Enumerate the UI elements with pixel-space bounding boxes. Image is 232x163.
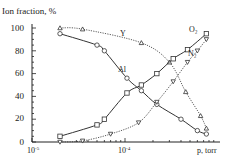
data-point-marker <box>125 91 129 95</box>
data-point-marker <box>185 60 189 64</box>
y-ticks <box>32 28 36 142</box>
series-layer <box>58 26 209 144</box>
data-point-marker <box>204 126 208 130</box>
data-point-marker <box>139 89 143 93</box>
y-tick-label-80: 80 <box>15 46 25 56</box>
data-point-marker <box>139 83 143 87</box>
y-axis-label: Ion fraction, % <box>2 6 57 16</box>
data-point-marker <box>80 27 84 31</box>
series-label-y: Y <box>120 29 126 38</box>
y-tick-label-0: 0 <box>20 137 25 147</box>
data-point-marker <box>102 49 106 53</box>
series-line <box>60 28 206 129</box>
data-point-marker <box>95 123 99 127</box>
data-point-marker <box>58 32 62 36</box>
data-point-marker <box>171 57 175 61</box>
data-point-marker <box>108 132 112 136</box>
data-point-marker <box>58 26 62 30</box>
data-point-marker <box>125 76 129 80</box>
data-point-marker <box>58 140 62 144</box>
data-point-marker <box>136 121 140 125</box>
y-tick-label-60: 60 <box>15 68 25 78</box>
series-line <box>60 34 206 134</box>
series-label-n2: N₂ <box>188 49 197 58</box>
x-tick-label-1e-4: 10-4 <box>118 146 131 155</box>
data-point-marker <box>171 80 175 84</box>
data-point-marker <box>179 117 183 121</box>
series-label-o2: O₂ <box>189 25 198 34</box>
data-point-marker <box>204 38 208 42</box>
data-point-marker <box>195 128 199 132</box>
y-tick-label-20: 20 <box>15 113 25 123</box>
data-point-marker <box>204 32 208 36</box>
ion-fraction-chart: Ion fraction, % 0 20 40 60 80 100 10-5 1… <box>0 0 232 163</box>
x-axis-label: p, torr <box>197 146 217 155</box>
data-point-marker <box>204 132 208 136</box>
y-tick-label-40: 40 <box>15 91 25 101</box>
data-point-marker <box>95 43 99 47</box>
data-point-marker <box>139 41 143 45</box>
data-point-marker <box>198 114 202 118</box>
data-point-marker <box>102 117 106 121</box>
data-point-marker <box>184 90 188 94</box>
y-tick-label-100: 100 <box>11 23 25 33</box>
series-label-al: Al <box>118 65 127 74</box>
series-line <box>60 39 206 142</box>
data-point-marker <box>155 71 159 75</box>
x-tick-label-1e-5: 10-5 <box>27 146 40 155</box>
data-point-marker <box>58 134 62 138</box>
